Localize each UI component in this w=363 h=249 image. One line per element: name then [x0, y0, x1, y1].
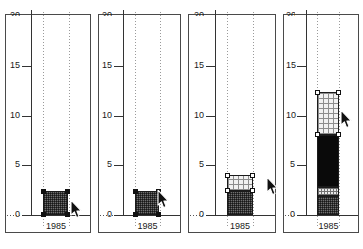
- y-tick-10: [22, 116, 31, 117]
- y-tick-label-10: 10: [8, 111, 20, 120]
- value-axis-line: [123, 10, 124, 216]
- y-tick-label-20: 20: [8, 11, 20, 16]
- bar-segment-4-4[interactable]: [317, 92, 339, 135]
- gridline-vertical-2: [69, 12, 70, 228]
- selection-handle-tr-1[interactable]: [65, 189, 70, 194]
- category-label-1985: 1985: [219, 221, 261, 231]
- y-tick-0: [22, 215, 31, 216]
- plot-area-2: 201510501985: [99, 15, 180, 232]
- y-tick-label-10: 10: [191, 111, 204, 120]
- bar-segment-3-1[interactable]: [227, 191, 253, 215]
- selection-handle-tl-3[interactable]: [225, 173, 230, 178]
- zero-lead-dashes: [100, 215, 113, 216]
- selection-handle-tl-4[interactable]: [315, 90, 320, 95]
- y-tick-label-20: 20: [101, 11, 112, 16]
- y-tick-label-20: 20: [191, 11, 204, 16]
- bar-segment-4-2[interactable]: [317, 187, 339, 196]
- y-tick-0: [114, 215, 123, 216]
- zero-lead-dashes: [7, 215, 21, 216]
- y-tick-15: [22, 66, 31, 67]
- gridline-vertical-2: [253, 12, 254, 228]
- y-tick-label-5: 5: [191, 160, 204, 169]
- selection-handle-tl-2[interactable]: [133, 189, 138, 194]
- y-tick-label-5: 5: [101, 160, 112, 169]
- plot-area-1: 201510501985: [6, 15, 90, 232]
- y-tick-10: [297, 116, 306, 117]
- chart-panel-4: 201510501985: [283, 14, 359, 233]
- value-axis-line: [215, 10, 216, 216]
- selection-handle-bl-3[interactable]: [225, 188, 230, 193]
- figure-canvas: 2015105019852015105019852015105019852015…: [0, 0, 363, 249]
- plot-area-4: 201510501985: [284, 15, 358, 232]
- selection-handle-bl-2[interactable]: [133, 212, 138, 217]
- y-tick-label-15: 15: [8, 61, 20, 70]
- y-tick-label-15: 15: [101, 61, 112, 70]
- mouse-cursor-4[interactable]: [340, 110, 353, 129]
- selection-handle-br-2[interactable]: [156, 212, 161, 217]
- zero-lead-dashes: [285, 215, 296, 216]
- y-tick-label-10: 10: [286, 111, 295, 120]
- selection-handle-tr-3[interactable]: [250, 173, 255, 178]
- category-axis-line: [306, 215, 358, 216]
- y-tick-15: [206, 66, 215, 67]
- y-tick-5: [22, 165, 31, 166]
- category-axis-line: [123, 215, 180, 216]
- selection-handle-br-4[interactable]: [336, 132, 341, 137]
- y-tick-label-15: 15: [286, 61, 295, 70]
- value-axis-line: [31, 10, 32, 216]
- y-tick-label-5: 5: [8, 160, 20, 169]
- bar-segment-4-3[interactable]: [317, 135, 339, 188]
- category-label-1985: 1985: [35, 221, 77, 231]
- selection-handle-bl-1[interactable]: [41, 212, 46, 217]
- y-tick-label-5: 5: [286, 160, 295, 169]
- selection-handle-bl-4[interactable]: [315, 132, 320, 137]
- category-label-1985: 1985: [309, 221, 348, 231]
- y-tick-5: [297, 165, 306, 166]
- y-tick-15: [114, 66, 123, 67]
- y-tick-5: [206, 165, 215, 166]
- y-tick-10: [114, 116, 123, 117]
- selection-handle-br-3[interactable]: [250, 188, 255, 193]
- y-tick-0: [297, 215, 306, 216]
- chart-panel-1: 201510501985: [5, 14, 91, 233]
- y-tick-15: [297, 66, 306, 67]
- y-tick-label-15: 15: [191, 61, 204, 70]
- value-axis-line: [306, 10, 307, 216]
- chart-panel-2: 201510501985: [98, 14, 181, 233]
- selection-handle-tr-4[interactable]: [336, 90, 341, 95]
- category-axis-line: [215, 215, 275, 216]
- chart-panel-3: 201510501985: [188, 14, 276, 233]
- mouse-cursor-3[interactable]: [266, 177, 279, 196]
- mouse-cursor-1[interactable]: [70, 200, 83, 219]
- y-tick-10: [206, 116, 215, 117]
- category-label-1985: 1985: [127, 221, 168, 231]
- y-tick-0: [206, 215, 215, 216]
- y-tick-label-20: 20: [286, 11, 295, 16]
- bar-segment-4-1[interactable]: [317, 196, 339, 215]
- y-tick-5: [114, 165, 123, 166]
- selection-handle-tl-1[interactable]: [41, 189, 46, 194]
- mouse-cursor-2[interactable]: [157, 190, 170, 209]
- plot-area-3: 201510501985: [189, 15, 275, 232]
- y-tick-label-10: 10: [101, 111, 112, 120]
- zero-lead-dashes: [190, 215, 205, 216]
